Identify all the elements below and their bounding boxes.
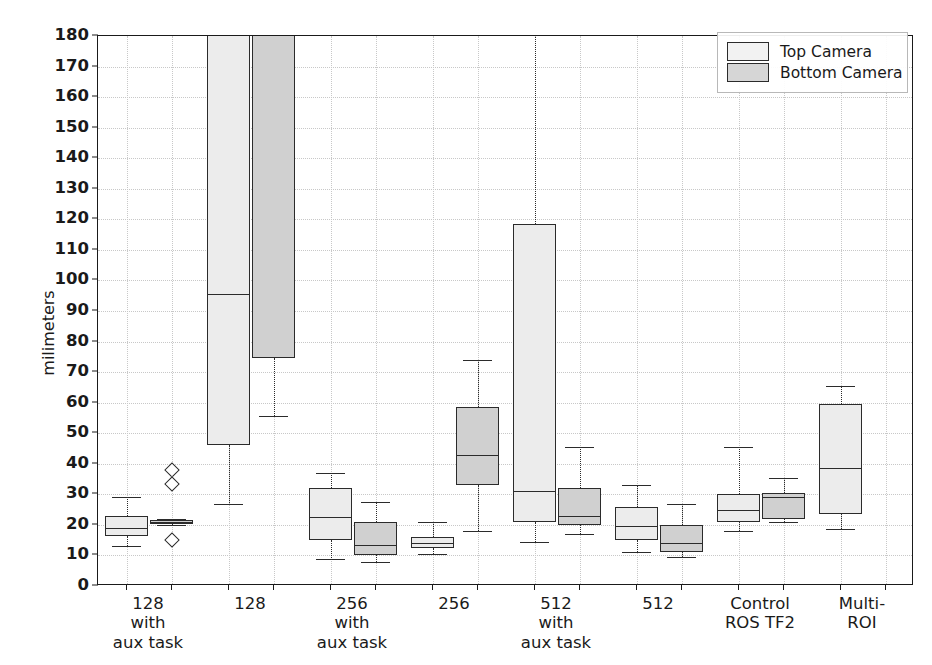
whisker-cap-upper-top-0 xyxy=(112,497,140,498)
box-top-2 xyxy=(309,488,352,540)
box-top-0 xyxy=(105,516,148,536)
y-axis-tick-label: 20 xyxy=(66,516,89,533)
whisker-cap-upper-top-3 xyxy=(418,522,446,523)
whisker-upper-bottom-2 xyxy=(376,502,377,522)
x-axis-tick-mark xyxy=(477,585,478,590)
x-axis-tick-label: Control ROS TF2 xyxy=(725,594,795,633)
gridline-vertical xyxy=(886,36,887,584)
whisker-lower-top-0 xyxy=(127,536,128,547)
y-axis-tick-label: 160 xyxy=(55,88,89,105)
whisker-cap-upper-top-7 xyxy=(826,386,854,387)
y-axis-tick-label: 140 xyxy=(55,149,89,166)
whisker-cap-lower-top-1 xyxy=(214,504,242,505)
x-axis-tick-label: 512 xyxy=(642,594,674,613)
median-line-bottom-0 xyxy=(150,522,193,523)
whisker-cap-lower-top-4 xyxy=(520,542,548,543)
whisker-cap-lower-bottom-4 xyxy=(565,534,593,535)
whisker-lower-bottom-4 xyxy=(580,525,581,534)
whisker-cap-upper-bottom-5 xyxy=(667,504,695,505)
y-axis-tick-label: 60 xyxy=(66,393,89,410)
y-axis-label: milimeters xyxy=(39,290,58,375)
whisker-upper-bottom-3 xyxy=(478,360,479,407)
median-line-top-1 xyxy=(207,294,250,295)
whisker-lower-top-4 xyxy=(535,522,536,542)
x-axis-tick-label: 128 xyxy=(234,594,266,613)
whisker-cap-lower-bottom-5 xyxy=(667,557,695,558)
whisker-lower-top-2 xyxy=(331,540,332,558)
whisker-cap-upper-top-5 xyxy=(622,485,650,486)
whisker-upper-bottom-5 xyxy=(682,504,683,525)
x-axis-tick-mark xyxy=(171,585,172,590)
x-axis-tick-mark xyxy=(534,585,535,590)
y-axis-tick-label: 180 xyxy=(55,27,89,44)
whisker-upper-top-7 xyxy=(841,386,842,404)
y-axis-tick-label: 110 xyxy=(55,241,89,258)
box-bottom-1 xyxy=(252,35,295,358)
gridline-vertical xyxy=(433,36,434,584)
x-axis-tick-label: 128 with aux task xyxy=(113,594,183,652)
legend-item-bottom-camera: Bottom Camera xyxy=(727,63,898,82)
median-line-top-0 xyxy=(105,528,148,529)
whisker-lower-top-7 xyxy=(841,514,842,529)
chart-legend: Top Camera Bottom Camera xyxy=(717,32,908,93)
box-top-5 xyxy=(615,507,658,541)
whisker-upper-top-2 xyxy=(331,473,332,488)
x-axis-tick-mark xyxy=(885,585,886,590)
whisker-cap-lower-bottom-1 xyxy=(259,416,287,417)
x-axis-tick-mark xyxy=(636,585,637,590)
y-axis-tick-label: 120 xyxy=(55,210,89,227)
whisker-lower-top-5 xyxy=(637,540,638,552)
x-axis-tick-mark xyxy=(273,585,274,590)
whisker-cap-lower-top-6 xyxy=(724,531,752,532)
x-axis-tick-mark xyxy=(432,585,433,590)
whisker-upper-bottom-6 xyxy=(784,478,785,493)
x-axis-tick-label: 256 xyxy=(438,594,470,613)
median-line-top-7 xyxy=(819,468,862,469)
legend-label-bottom-camera: Bottom Camera xyxy=(780,64,903,82)
whisker-upper-top-3 xyxy=(433,522,434,537)
x-axis-tick-mark xyxy=(681,585,682,590)
median-line-top-2 xyxy=(309,517,352,518)
whisker-cap-upper-bottom-6 xyxy=(769,478,797,479)
gridline-vertical xyxy=(172,36,173,584)
whisker-upper-top-6 xyxy=(739,447,740,494)
median-line-bottom-3 xyxy=(456,455,499,456)
y-axis-tick-label: 130 xyxy=(55,180,89,197)
whisker-lower-bottom-3 xyxy=(478,485,479,531)
whisker-cap-lower-bottom-2 xyxy=(361,562,389,563)
box-top-6 xyxy=(717,494,760,522)
x-axis-tick-mark xyxy=(840,585,841,590)
whisker-cap-lower-top-2 xyxy=(316,559,344,560)
x-axis-tick-label: Multi-ROI xyxy=(827,594,897,633)
legend-swatch-top-camera xyxy=(727,42,769,61)
whisker-upper-bottom-4 xyxy=(580,447,581,488)
box-bottom-3 xyxy=(456,407,499,485)
box-top-4 xyxy=(513,224,556,522)
median-line-bottom-2 xyxy=(354,545,397,546)
x-axis-tick-mark xyxy=(330,585,331,590)
gridline-horizontal xyxy=(98,525,912,526)
y-axis-tick-label: 90 xyxy=(66,302,89,319)
outlier-marker-bottom-0-2 xyxy=(164,532,180,548)
plot-area xyxy=(97,35,913,585)
box-bottom-2 xyxy=(354,522,397,556)
y-axis-tick-label: 10 xyxy=(66,546,89,563)
y-axis-tick-label: 170 xyxy=(55,57,89,74)
y-axis-tick-label: 150 xyxy=(55,118,89,135)
whisker-cap-upper-bottom-3 xyxy=(463,360,491,361)
x-axis-tick-mark xyxy=(126,585,127,590)
x-axis-tick-label: 256 with aux task xyxy=(317,594,387,652)
legend-label-top-camera: Top Camera xyxy=(780,43,872,61)
x-axis-tick-mark xyxy=(783,585,784,590)
y-axis-tick-label: 50 xyxy=(66,424,89,441)
whisker-cap-lower-bottom-6 xyxy=(769,522,797,523)
whisker-cap-upper-top-2 xyxy=(316,473,344,474)
legend-swatch-bottom-camera xyxy=(727,63,769,82)
x-axis-tick-mark xyxy=(375,585,376,590)
gridline-horizontal xyxy=(98,464,912,465)
whisker-cap-lower-top-0 xyxy=(112,546,140,547)
x-axis-tick-label: 512 with aux task xyxy=(521,594,591,652)
whisker-cap-upper-top-6 xyxy=(724,447,752,448)
gridline-horizontal xyxy=(98,555,912,556)
median-line-bottom-6 xyxy=(762,497,805,498)
